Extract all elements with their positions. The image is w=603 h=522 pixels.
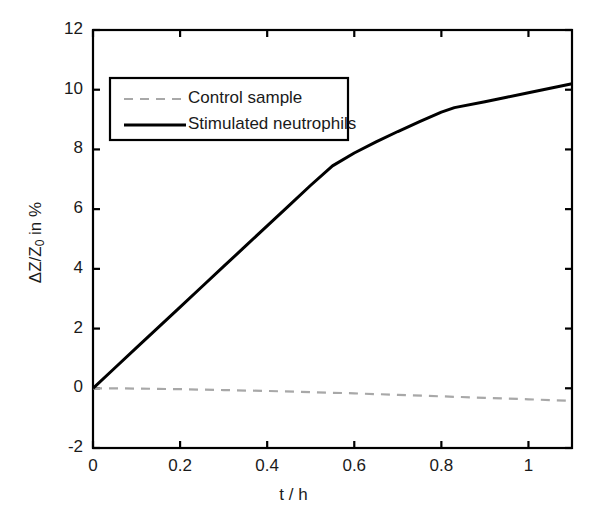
series-line-0 xyxy=(93,388,572,401)
x-tick-label: 0.8 xyxy=(411,456,471,476)
chart-figure: 00.20.40.60.81-2024681012 Control sample… xyxy=(0,0,603,522)
x-tick-label: 0.2 xyxy=(150,456,210,476)
y-tick-label: 0 xyxy=(43,377,83,397)
x-tick-label: 0.4 xyxy=(237,456,297,476)
y-tick-label: 4 xyxy=(43,258,83,278)
legend-label-1: Stimulated neutrophils xyxy=(188,114,356,134)
y-tick-label: 10 xyxy=(43,79,83,99)
x-tick-label: 0.6 xyxy=(324,456,384,476)
x-axis-label: t / h xyxy=(0,485,595,505)
y-tick-label: -2 xyxy=(43,437,83,457)
y-tick-label: 2 xyxy=(43,318,83,338)
y-tick-label: 12 xyxy=(43,19,83,39)
legend-label-0: Control sample xyxy=(188,88,302,108)
y-tick-label: 8 xyxy=(43,138,83,158)
y-tick-label: 6 xyxy=(43,198,83,218)
x-tick-label: 0 xyxy=(63,456,123,476)
x-tick-label: 1 xyxy=(498,456,558,476)
chart-plot-area xyxy=(0,0,603,522)
